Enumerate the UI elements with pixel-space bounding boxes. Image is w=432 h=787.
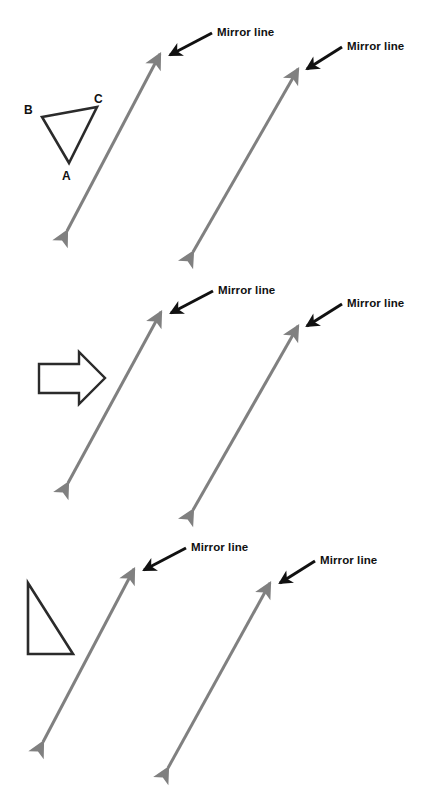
mirror-line-left-pointer-arrow-icon (144, 548, 186, 570)
mirror-line-left[interactable] (43, 569, 134, 742)
labelled-triangle-abc[interactable] (42, 107, 97, 163)
mirror-line-left-label: Mirror line (191, 541, 248, 553)
mirror-line-left-label: Mirror line (218, 284, 275, 296)
mirror-line-right-pointer-arrow-icon (307, 47, 342, 69)
reflection-figure: B C A Mirror line Mirror line Mirror lin… (0, 0, 432, 787)
panel-1: B C A Mirror line Mirror line (24, 26, 404, 252)
panel-2: Mirror line Mirror line (39, 284, 404, 510)
right-pointing-block-arrow[interactable] (39, 352, 105, 404)
mirror-line-left-label: Mirror line (217, 26, 274, 38)
mirror-line-right[interactable] (168, 583, 270, 768)
vertex-label-a: A (62, 169, 71, 183)
vertex-label-c: C (94, 92, 103, 106)
mirror-line-left-pointer-arrow-icon (170, 33, 212, 55)
mirror-line-right-label: Mirror line (347, 297, 404, 309)
mirror-line-right[interactable] (193, 326, 298, 510)
mirror-line-left-pointer-arrow-icon (171, 291, 213, 313)
worksheet-canvas: B C A Mirror line Mirror line Mirror lin… (0, 0, 432, 787)
mirror-line-right-pointer-arrow-icon (280, 561, 315, 583)
mirror-line-right-label: Mirror line (320, 554, 377, 566)
panel-3: Mirror line Mirror line (28, 541, 377, 768)
right-angled-triangle[interactable] (28, 583, 73, 654)
vertex-label-b: B (24, 103, 33, 117)
mirror-line-right-pointer-arrow-icon (307, 304, 342, 326)
mirror-line-right[interactable] (193, 69, 298, 252)
mirror-line-right-label: Mirror line (347, 40, 404, 52)
mirror-line-left[interactable] (67, 54, 160, 231)
